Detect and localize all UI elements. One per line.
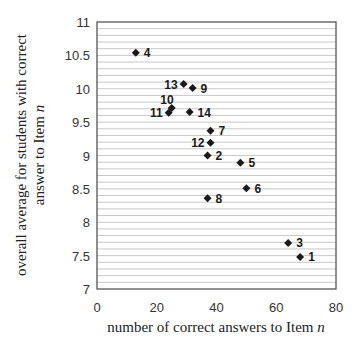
diamond-marker-icon <box>207 139 215 147</box>
point-label: 4 <box>144 46 151 60</box>
x-tick-label: 80 <box>329 300 343 315</box>
x-axis-ticks: 020406080 <box>93 300 343 315</box>
scatter-chart: 77.588.599.51010.511 020406080 123456789… <box>0 0 359 350</box>
data-point-item-12: 12 <box>191 136 214 150</box>
point-label: 13 <box>164 78 178 92</box>
y-axis-title: overall average for students with correc… <box>13 33 47 276</box>
y-tick-label: 7 <box>83 282 90 297</box>
point-label: 9 <box>201 82 208 96</box>
data-point-item-8: 8 <box>204 192 223 206</box>
y-tick-label: 7.5 <box>72 249 90 264</box>
diamond-marker-icon <box>204 152 212 160</box>
point-label: 10 <box>160 93 174 107</box>
diamond-marker-icon <box>296 253 304 261</box>
diamond-marker-icon <box>242 184 250 192</box>
y-tick-label: 11 <box>77 15 91 30</box>
y-axis-title-var: n <box>31 105 47 113</box>
y-axis-title-text: answer to Item <box>31 112 47 205</box>
y-tick-label: 10.5 <box>65 48 90 63</box>
y-tick-label: 8.5 <box>72 182 90 197</box>
diamond-marker-icon <box>189 84 197 92</box>
data-point-item-3: 3 <box>284 236 303 250</box>
y-tick-label: 8 <box>83 215 90 230</box>
diamond-marker-icon <box>236 159 244 167</box>
x-tick-label: 40 <box>209 300 223 315</box>
point-label: 12 <box>191 136 205 150</box>
data-point-item-5: 5 <box>236 156 255 170</box>
y-axis-ticks: 77.588.599.51010.511 <box>65 15 90 297</box>
y-axis-title-line2: answer to Item n <box>31 105 47 205</box>
diamond-marker-icon <box>186 108 194 116</box>
x-axis-title-var: n <box>317 319 325 335</box>
point-label: 5 <box>248 156 255 170</box>
y-tick-label: 10 <box>76 82 90 97</box>
x-axis-title: number of correct answers to Item n <box>107 319 324 335</box>
diamond-marker-icon <box>207 127 215 135</box>
point-label: 3 <box>296 236 303 250</box>
y-tick-label: 9.5 <box>72 115 90 130</box>
diamond-marker-icon <box>284 239 292 247</box>
x-axis-title-text: number of correct answers to Item <box>107 319 317 335</box>
point-label: 11 <box>150 106 163 120</box>
x-tick-label: 0 <box>93 300 100 315</box>
y-axis-title-line1: overall average for students with correc… <box>13 33 29 276</box>
point-label: 14 <box>198 106 212 120</box>
y-tick-label: 9 <box>83 149 90 164</box>
point-label: 2 <box>216 149 223 163</box>
x-tick-label: 60 <box>269 300 283 315</box>
point-label: 6 <box>254 182 261 196</box>
x-tick-label: 20 <box>150 300 164 315</box>
data-point-item-13: 13 <box>164 78 187 92</box>
diamond-marker-icon <box>180 80 188 88</box>
point-label: 8 <box>216 192 223 206</box>
data-point-item-7: 7 <box>207 124 226 138</box>
data-point-item-14: 14 <box>186 106 212 120</box>
point-label: 1 <box>308 250 315 264</box>
point-label: 7 <box>219 124 226 138</box>
